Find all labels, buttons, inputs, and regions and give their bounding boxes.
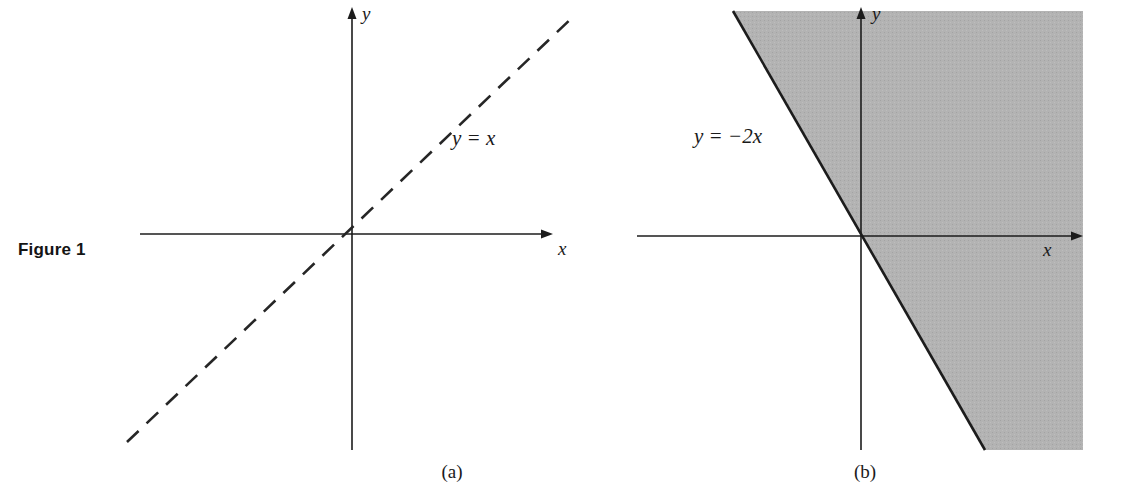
panel-a-plot [100,0,600,503]
line-y-equals-x [127,15,575,442]
y-axis-label-b: y [872,4,880,23]
figure-root: Figure 1 y = x y x (a) [0,0,1136,503]
caption-a: (a) [332,462,572,481]
panel-b: y = −2x y x (b) [620,0,1136,503]
equation-label-b: y = −2x [694,126,762,147]
y-axis-label-a: y [362,4,370,23]
equation-label-a: y = x [452,128,495,149]
x-axis-label-a: x [558,239,566,258]
caption-b: (b) [745,462,985,481]
x-axis-label-b: x [1043,240,1051,259]
panel-b-plot [620,0,1136,503]
figure-number-label: Figure 1 [18,240,86,260]
panel-a: y = x y x (a) [100,0,600,503]
shaded-region-b [733,11,1083,450]
